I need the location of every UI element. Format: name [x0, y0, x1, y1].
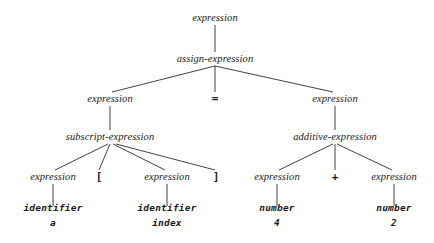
node-label: =	[212, 92, 219, 105]
nonterminal-node-n7: expression	[30, 171, 76, 183]
nonterminal-node-n1: assign-expression	[177, 53, 254, 65]
node-label: +	[332, 170, 339, 183]
node-label: additive-expression	[293, 131, 377, 142]
node-label: expression	[192, 12, 238, 23]
node-label: assign-expression	[177, 53, 254, 64]
leaf-node-l3: number2	[376, 203, 412, 229]
parse-tree-diagram: expressionassign-expressionexpression=ex…	[0, 0, 434, 243]
nonterminal-node-n5: subscript-expression	[66, 131, 155, 143]
tree-edge	[113, 144, 165, 170]
leaf-token-type: number	[376, 203, 412, 214]
node-label: expression	[87, 93, 133, 104]
nonterminal-node-n11: expression	[254, 171, 300, 183]
tree-edge	[112, 66, 215, 92]
node-label: expression	[254, 171, 300, 182]
nonterminal-node-n2: expression	[87, 93, 133, 105]
node-label: expression	[371, 171, 417, 182]
leaf-token-value: index	[137, 218, 196, 229]
tree-edge	[279, 144, 333, 170]
nonterminal-node-n6: additive-expression	[293, 131, 377, 143]
leaf-token-type: identifier	[137, 203, 196, 214]
leaf-token-value: 4	[259, 218, 295, 229]
tree-edge	[116, 144, 215, 170]
node-label: subscript-expression	[66, 131, 155, 142]
node-label: expression	[30, 171, 76, 182]
leaf-token-value: a	[23, 218, 82, 229]
leaf-token-value: 2	[376, 218, 412, 229]
leaf-token-type: identifier	[23, 203, 82, 214]
nonterminal-node-n0: expression	[192, 12, 238, 24]
leaf-node-l0: identifiera	[23, 203, 82, 229]
leaf-node-l1: identifierindex	[137, 203, 196, 229]
terminal-node-n10: ]	[213, 171, 220, 184]
terminal-node-n3: =	[212, 93, 219, 106]
terminal-node-n8: [	[96, 171, 103, 184]
node-label: expression	[312, 93, 358, 104]
nonterminal-node-n13: expression	[371, 171, 417, 183]
node-label: [	[96, 170, 103, 183]
tree-edge	[337, 144, 392, 170]
leaf-node-l2: number4	[259, 203, 295, 229]
leaf-token-type: number	[259, 203, 295, 214]
tree-edge	[99, 144, 110, 170]
nonterminal-node-n9: expression	[144, 171, 190, 183]
node-label: ]	[213, 170, 220, 183]
nonterminal-node-n4: expression	[312, 93, 358, 105]
node-label: expression	[144, 171, 190, 182]
tree-edge	[215, 66, 333, 92]
tree-edge	[55, 144, 108, 170]
terminal-node-n12: +	[332, 171, 339, 184]
